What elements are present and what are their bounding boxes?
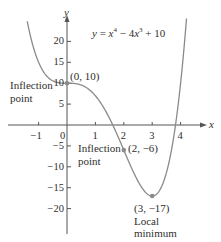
equation-label: y = x4 − 4x3 + 10 — [92, 24, 165, 39]
inflection-note-2-line1: Inflection — [78, 142, 121, 154]
x-tick-label: 4 — [178, 130, 183, 142]
x-tick-label: 3 — [149, 130, 154, 142]
x-tick-label: −1 — [31, 130, 42, 142]
data-point-marker — [122, 148, 127, 153]
y-axis-label: y — [64, 6, 69, 18]
y-tick-label: −5 — [53, 140, 64, 152]
axes — [8, 15, 207, 234]
y-tick-label: −15 — [48, 182, 64, 194]
y-tick-label: 10 — [54, 77, 65, 89]
y-tick-label: −10 — [48, 161, 64, 173]
minimum-note-line2: minimum — [134, 227, 177, 239]
y-tick-label: 15 — [54, 56, 65, 68]
data-point-marker — [150, 194, 155, 199]
minimum-note-line1: Local — [134, 215, 159, 227]
point-label-2-neg6: (2, −6) — [128, 142, 158, 154]
x-tick-label: 1 — [92, 130, 97, 142]
y-tick-label: 5 — [59, 98, 64, 110]
marked-points — [65, 81, 155, 198]
x-axis-arrow-icon — [200, 123, 207, 128]
point-label-0-10: (0, 10) — [70, 70, 99, 82]
point-label-3-neg17: (3, −17) — [134, 202, 170, 214]
inflection-note-1-line2: point — [10, 92, 33, 104]
x-axis-label: x — [209, 118, 214, 130]
x-tick-label: 2 — [121, 130, 126, 142]
data-point-marker — [65, 81, 70, 86]
inflection-note-1-line1: Inflection — [10, 79, 53, 91]
inflection-note-2-line2: point — [78, 155, 101, 167]
y-tick-label: −20 — [48, 203, 64, 215]
y-tick-label: 20 — [54, 35, 65, 47]
